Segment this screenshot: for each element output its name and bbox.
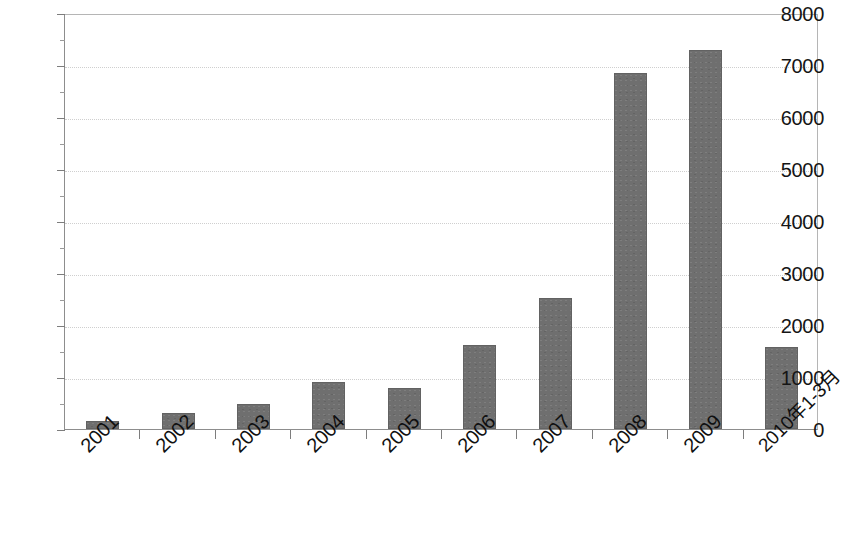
x-tick-mark — [516, 430, 517, 439]
y-tick-label: 6000 — [768, 108, 824, 128]
x-tick-mark — [667, 430, 668, 439]
x-tick-mark — [441, 430, 442, 439]
y-minor-tick-mark — [60, 144, 65, 145]
y-tick-mark — [57, 222, 65, 223]
y-tick-mark — [57, 170, 65, 171]
y-minor-tick-mark — [60, 92, 65, 93]
y-tick-label: 2000 — [768, 316, 824, 336]
y-tick-mark — [57, 274, 65, 275]
x-tick-mark — [139, 430, 140, 439]
y-tick-mark — [57, 378, 65, 379]
x-tick-mark — [743, 430, 744, 439]
y-minor-tick-mark — [60, 404, 65, 405]
y-tick-mark — [57, 66, 65, 67]
plot-area — [64, 14, 818, 430]
y-tick-label: 4000 — [768, 212, 824, 232]
y-minor-tick-mark — [60, 40, 65, 41]
x-tick-mark — [592, 430, 593, 439]
bar — [689, 50, 722, 429]
y-tick-mark — [57, 326, 65, 327]
y-tick-mark — [57, 430, 65, 431]
y-tick-mark — [57, 14, 65, 15]
y-tick-label: 3000 — [768, 264, 824, 284]
y-tick-label: 8000 — [768, 4, 824, 24]
y-minor-tick-mark — [60, 196, 65, 197]
y-tick-mark — [57, 118, 65, 119]
x-tick-mark — [366, 430, 367, 439]
y-minor-tick-mark — [60, 300, 65, 301]
y-minor-tick-mark — [60, 352, 65, 353]
y-tick-label: 5000 — [768, 160, 824, 180]
y-minor-tick-mark — [60, 248, 65, 249]
bar — [539, 298, 572, 429]
x-tick-mark — [290, 430, 291, 439]
bar — [614, 73, 647, 429]
y-tick-label: 7000 — [768, 56, 824, 76]
x-tick-mark — [215, 430, 216, 439]
